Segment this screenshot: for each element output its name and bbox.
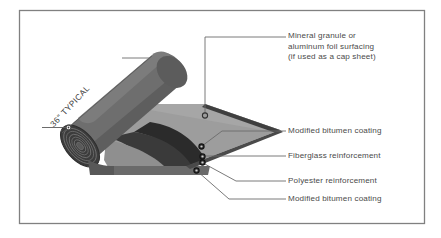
leader-dot-polyester [201, 161, 203, 163]
callout-line: Mineral granule or [288, 31, 376, 42]
leader-dot-bitumen-top [200, 145, 202, 147]
leader-line-polyester [203, 163, 286, 181]
callout-label-polyester: Polyester reinforcement [288, 176, 377, 187]
callout-line: aluminum foil surfacing [288, 42, 376, 53]
leader-dot-bitumen-bottom [195, 169, 197, 171]
callout-line: Modified bitumen coating [288, 194, 382, 205]
callout-label-surfacing: Mineral granule or aluminum foil surfaci… [288, 31, 376, 63]
leader-dot-fiberglass [201, 155, 203, 157]
callout-line: Fiberglass reinforcement [288, 151, 381, 162]
dimension-endpoint-dot [68, 127, 70, 129]
leader-line-bitumen-bottom [197, 171, 286, 199]
callout-line: Polyester reinforcement [288, 176, 377, 187]
callout-line: (if used as a cap sheet) [288, 52, 376, 63]
callout-label-bitumen-bottom: Modified bitumen coating [288, 194, 382, 205]
callout-line: Modified bitumen coating [288, 126, 382, 137]
leader-line-surfacing [205, 37, 286, 115]
callout-label-bitumen-top: Modified bitumen coating [288, 126, 382, 137]
callout-label-fiberglass: Fiberglass reinforcement [288, 151, 381, 162]
leader-point-surfacing [202, 113, 207, 118]
roll-roofing-diagram: 36" TYPICAL Mineral granule or aluminum … [0, 0, 441, 238]
